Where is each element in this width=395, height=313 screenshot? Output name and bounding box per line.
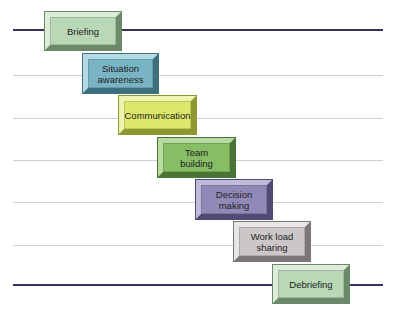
step-work-load-sharing: Work loadsharing (234, 222, 310, 261)
step-debriefing: Debriefing (273, 265, 349, 303)
step-label: Debriefing (289, 279, 332, 290)
step-label: Teambuilding (180, 147, 213, 169)
grid-line (13, 245, 383, 246)
step-team-building: Teambuilding (158, 138, 235, 177)
step-label: Work loadsharing (251, 231, 294, 253)
step-situation-awareness: Situationawareness (83, 54, 158, 93)
step-communication: Communication (119, 96, 196, 134)
step-decision-making: Decisionmaking (196, 180, 272, 219)
step-label: Decisionmaking (216, 189, 252, 211)
grid-line (13, 75, 383, 76)
step-label: Briefing (67, 26, 99, 37)
step-label: Situationawareness (98, 63, 144, 85)
step-briefing: Briefing (45, 12, 121, 50)
grid-line (13, 118, 383, 119)
step-label: Communication (125, 110, 191, 121)
